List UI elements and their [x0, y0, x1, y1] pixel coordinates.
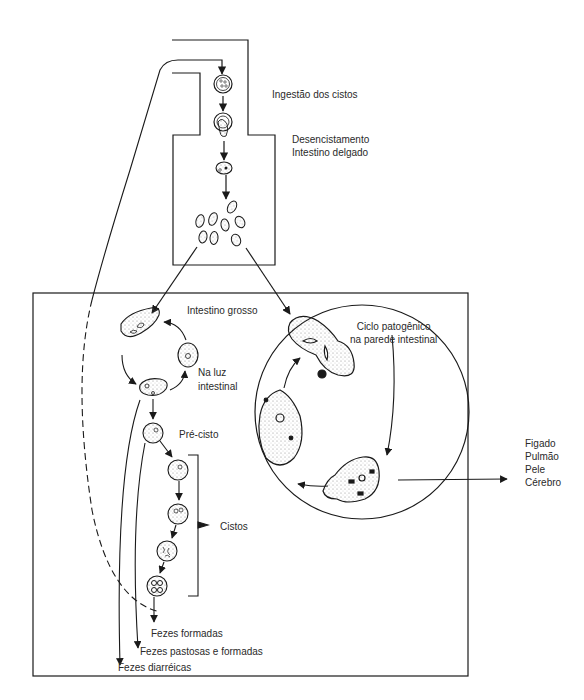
- organ-lung: Pulmão: [525, 450, 561, 463]
- label-pathogenic-cycle: Ciclo patogênico na parede intestinal: [350, 320, 437, 346]
- label-large-intestine: Intestino grosso: [187, 304, 258, 317]
- excysting-cyst-icon: [214, 113, 232, 137]
- label-diarrheic-feces: Fezes diarréicas: [118, 661, 191, 674]
- reinfection-path: [92, 60, 178, 300]
- organ-skin: Pele: [525, 463, 561, 476]
- label-ingestion: Ingestão dos cistos: [272, 88, 358, 101]
- label-intestino-delgado: Intestino delgado: [292, 146, 369, 159]
- ingested-cyst-icon: [214, 75, 232, 93]
- organ-liver: Figado: [525, 437, 561, 450]
- life-cycle-diagram: [0, 0, 584, 700]
- label-intestinal: intestinal: [198, 380, 237, 394]
- label-formed-feces: Fezes formadas: [151, 627, 223, 640]
- metacystic-amoeba-icon: [216, 162, 232, 174]
- label-pre-cyst: Pré-cisto: [179, 428, 218, 441]
- organ-list: Figado Pulmão Pele Cérebro: [525, 437, 561, 489]
- label-ciclo-patogenico: Ciclo patogênico: [350, 320, 437, 333]
- large-intestine-box: [33, 293, 468, 676]
- organ-brain: Cérebro: [525, 476, 561, 489]
- label-lumen: Na luz intestinal: [198, 366, 237, 394]
- lumen-cycle: [121, 308, 198, 419]
- label-na-parede: na parede intestinal: [350, 333, 437, 346]
- trophozoite-cluster-icon: [194, 199, 246, 247]
- label-desencistamento: Desencistamento: [292, 133, 369, 146]
- reinfection-path-dashed: [82, 300, 160, 612]
- label-na-luz: Na luz: [198, 366, 237, 380]
- label-cysts: Cistos: [220, 520, 248, 533]
- label-pasty-feces: Fezes pastosas e formadas: [140, 645, 263, 658]
- label-excystation: Desencistamento Intestino delgado: [292, 133, 369, 159]
